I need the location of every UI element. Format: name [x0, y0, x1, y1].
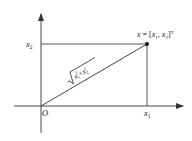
x1-axis-label: x1: [143, 108, 151, 119]
x2-axis-label: x2: [25, 39, 33, 50]
vector-endpoint: [145, 42, 149, 46]
vector-diagram: O x1 x2 x = [x1, x2]T x12+x22: [0, 0, 192, 141]
vector-line: [41, 44, 147, 106]
point-label: x = [x1, x2]T: [136, 30, 174, 40]
origin-label: O: [42, 108, 48, 118]
